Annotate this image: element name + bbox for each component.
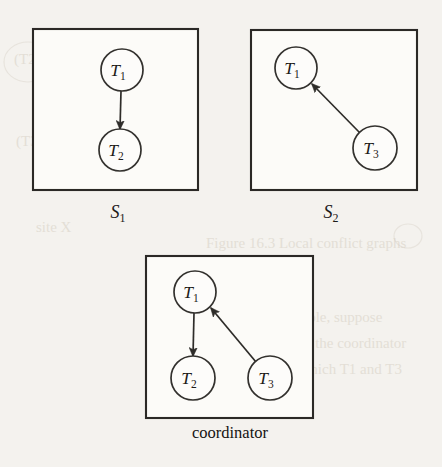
edge-t1-to-t2: [193, 313, 194, 356]
site-box-coordinator: [146, 256, 313, 418]
site-box-2: [251, 30, 417, 190]
conflict-graph-figure: Figure 16.3 Local conflict graphs to the…: [0, 0, 442, 467]
site-label-s1: S1: [111, 202, 126, 225]
panel-site-1: T1 T2 S1: [33, 29, 198, 225]
panel-coordinator: T1 T2 T3 coordinator: [146, 256, 313, 442]
panel-site-2: T1 T3 S2: [251, 30, 417, 225]
edge-t1-to-t2: [120, 91, 121, 129]
site-label-s2: S2: [324, 202, 339, 225]
svg-text:Figure 16.3 Local conflict: Figure 16.3 Local conflict graphs: [206, 235, 407, 251]
svg-text:site X: site X: [36, 219, 72, 235]
figure-canvas: Figure 16.3 Local conflict graphs to the…: [0, 0, 442, 467]
coordinator-label: coordinator: [192, 423, 269, 442]
